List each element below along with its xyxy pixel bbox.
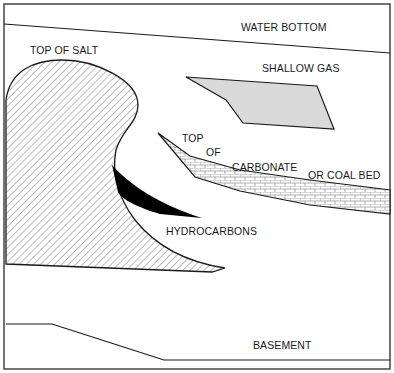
cross-section-diagram: WATER BOTTOM TOP OF SALT SHALLOW GAS TOP…: [0, 0, 394, 373]
label-water-bottom: WATER BOTTOM: [241, 21, 327, 33]
basement-line: [6, 324, 390, 360]
label-or-coal-bed: OR COAL BED: [308, 169, 380, 181]
label-basement: BASEMENT: [253, 339, 312, 351]
label-of: OF: [206, 146, 221, 158]
label-carbonate: CARBONATE: [232, 161, 297, 173]
shallow-gas-body: [186, 77, 334, 129]
label-hydrocarbons: HYDROCARBONS: [166, 225, 257, 237]
label-top-of-salt: TOP OF SALT: [30, 44, 98, 56]
label-shallow-gas: SHALLOW GAS: [262, 62, 340, 74]
label-top: TOP: [182, 132, 204, 144]
